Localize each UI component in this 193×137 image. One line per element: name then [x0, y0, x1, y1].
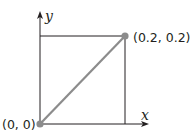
point-end [121, 32, 128, 39]
coordinate-diagram: y x (0.2, 0.2) (0, 0) [0, 0, 193, 137]
x-axis-label: x [141, 107, 149, 123]
point-origin-label: (0, 0) [2, 117, 36, 132]
diagonal-segment [40, 36, 125, 124]
y-axis-label: y [44, 8, 54, 24]
point-origin [36, 120, 43, 127]
point-end-label: (0.2, 0.2) [133, 30, 190, 45]
